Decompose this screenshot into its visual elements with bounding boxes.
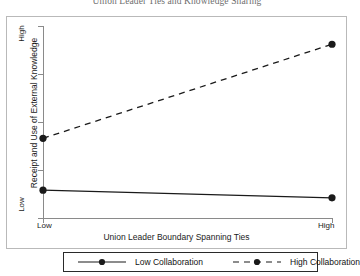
data-point [328,41,335,48]
legend-swatch-dashed [231,256,283,268]
legend-entry-low-collaboration: Low Collaboration [76,253,203,271]
series-line [43,44,332,138]
data-point [328,194,335,201]
data-point [39,135,46,142]
series-low-collaboration [39,187,335,202]
legend: Low Collaboration High Collaboration [63,252,318,272]
series-line [43,190,332,198]
legend-swatch-solid [76,256,128,268]
series-high-collaboration [39,41,335,142]
legend-entry-high-collaboration: High Collaboration [231,253,360,271]
legend-label-low-collaboration: Low Collaboration [135,257,203,267]
legend-label-high-collaboration: High Collaboration [290,257,360,267]
data-point [39,187,46,194]
